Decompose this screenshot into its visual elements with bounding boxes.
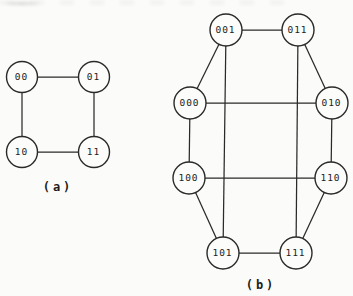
node-label-10: 10 xyxy=(15,146,28,157)
node-label-110: 110 xyxy=(320,172,340,183)
node-label-11: 11 xyxy=(87,146,100,157)
node-label-010: 010 xyxy=(321,97,341,108)
scan-artifact-corner xyxy=(2,0,42,7)
node-label-001: 001 xyxy=(215,24,235,35)
node-label-01: 01 xyxy=(87,71,100,82)
scanned-figure-page: 00011011(a)001011000010100110101111(b) xyxy=(0,0,353,296)
edge-011-111 xyxy=(296,30,298,253)
node-label-000: 000 xyxy=(179,97,199,108)
caption-b: (b) xyxy=(246,278,277,292)
node-label-00: 00 xyxy=(15,71,28,82)
caption-a: (a) xyxy=(43,180,74,194)
edge-001-101 xyxy=(223,30,226,253)
hypercube-diagrams-svg: 00011011(a)001011000010100110101111(b) xyxy=(0,0,353,296)
node-label-011: 011 xyxy=(287,24,307,35)
node-label-100: 100 xyxy=(178,172,198,183)
node-label-101: 101 xyxy=(212,247,232,258)
node-label-111: 111 xyxy=(285,247,305,258)
scan-artifact-top xyxy=(0,0,300,5)
